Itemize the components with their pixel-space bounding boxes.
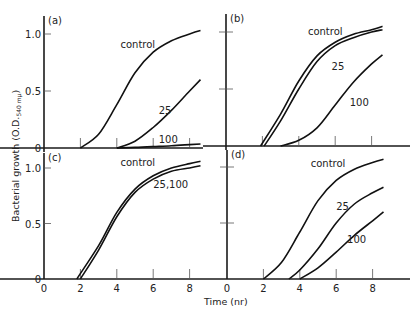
x-tick-label: 8 (369, 283, 375, 294)
panel-b: (b)control25100 (203, 13, 410, 150)
x-tick-label: 8 (186, 283, 192, 294)
panel-label: (c) (48, 152, 61, 163)
curve-label: control (311, 158, 346, 169)
growth-curves-figure: 00.51.0(a)control25100(b)control2510000.… (0, 0, 420, 317)
curve-label: 100 (350, 97, 369, 108)
panel-a: 00.51.0(a)control25100 (0, 15, 203, 154)
x-tick-label: 2 (260, 283, 266, 294)
x-tick-label: 0 (41, 283, 47, 294)
panel-d: 02468(d)control25100 (203, 149, 410, 294)
panel-label: (b) (230, 13, 244, 24)
curve-label: 25 (159, 105, 172, 116)
curve-label: control (120, 39, 155, 50)
y-tick-label: 1.0 (25, 163, 41, 174)
curve-25 (264, 30, 382, 146)
curve-control (261, 26, 383, 146)
curve-100 (300, 212, 384, 279)
y-tick-label: 0.5 (25, 86, 41, 97)
curve-label: 100 (347, 234, 366, 245)
y-axis-label: Bacterial growth (O.D.540 mμ) (10, 90, 23, 222)
curve-label: control (120, 157, 155, 168)
y-tick-label: 0.5 (25, 219, 41, 230)
y-tick-label: 1.0 (25, 29, 41, 40)
panels: 00.51.0(a)control25100(b)control2510000.… (0, 13, 410, 294)
curve-control (263, 159, 383, 279)
curve-label: 25 (336, 201, 349, 212)
curve-label: 25,100 (153, 179, 188, 190)
curve-label: 100 (159, 134, 178, 145)
curve-label: control (308, 26, 343, 37)
panel-label: (a) (48, 15, 62, 26)
curve-label: 25 (332, 61, 345, 72)
x-tick-label: 0 (224, 283, 230, 294)
panel-c: 00.51.002468(c)control25,100 (0, 152, 203, 294)
x-axis-label: Time (nr) (203, 296, 248, 307)
x-tick-label: 4 (297, 283, 303, 294)
x-tick-label: 4 (114, 283, 120, 294)
x-tick-label: 2 (77, 283, 83, 294)
panel-label: (d) (231, 149, 245, 160)
x-tick-label: 6 (150, 283, 156, 294)
y-tick-label: 0 (35, 143, 41, 154)
x-tick-label: 6 (333, 283, 339, 294)
